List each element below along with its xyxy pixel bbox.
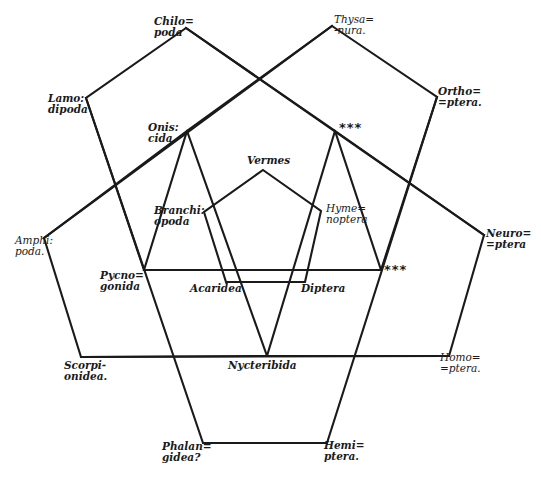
- label-homoptera: Homo= =ptera.: [440, 352, 481, 374]
- affinity-diagram: [0, 0, 541, 479]
- label-phalangidea: Phalan= gidea?: [162, 441, 212, 463]
- pentagon-chilopoda: [86, 28, 381, 270]
- unknown-marker-upper: ***: [339, 120, 362, 135]
- line-scorpionidea-homoptera: [81, 356, 449, 357]
- label-scorpionidea: Scorpi- onidea.: [64, 360, 107, 382]
- label-oniscida: Onis: cida: [148, 122, 179, 144]
- label-hemiptera: Hemi= ptera.: [324, 440, 365, 462]
- pentagon-neuroptera: [267, 131, 484, 356]
- label-lamodipoda: Lamo: dipoda: [48, 93, 88, 115]
- label-orthoptera: Ortho= =ptera.: [438, 86, 482, 108]
- label-hymenoptera: Hyme= noptera: [326, 203, 368, 225]
- label-diptera: Diptera: [301, 283, 345, 294]
- pentagon-amphipoda: [44, 131, 267, 357]
- label-amphipoda: Amphi: poda.: [15, 235, 53, 257]
- label-neuroptera: Neuro= =ptera: [486, 228, 531, 250]
- unknown-marker-right: ***: [384, 262, 407, 277]
- label-branchiopoda: Branchi: opoda: [154, 205, 205, 227]
- label-nycteribida: Nycteribida: [228, 360, 297, 371]
- label-thysanura: Thysa= -nura.: [334, 14, 374, 36]
- label-acaridea: Acaridea: [190, 283, 242, 294]
- label-pycnogonida: Pycno= gonida: [100, 270, 144, 292]
- label-vermes: Vermes: [247, 155, 290, 166]
- label-chilopoda: Chilo= poda: [154, 16, 194, 38]
